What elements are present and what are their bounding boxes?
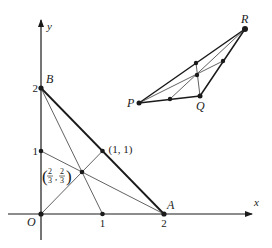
point-P <box>137 101 142 106</box>
triangle-PQR <box>139 29 245 103</box>
median-from-R <box>170 29 245 99</box>
x-tick-1: 1 <box>100 217 106 229</box>
point-R <box>242 26 248 32</box>
label-B: B <box>46 72 54 86</box>
frac2-num: 2 <box>60 167 64 176</box>
coordinate-triangle: O A B (1, 1) 1 2 1 2 ( 2 3 , 2 3 ) <box>27 72 175 229</box>
point-O <box>38 211 43 216</box>
midpoint-OA <box>100 212 105 217</box>
right-paren: ) <box>66 167 72 186</box>
label-P: P <box>126 96 135 110</box>
median-centroid-diagram: x y O A B (1, 1) 1 2 1 2 ( 2 3 , 2 <box>0 0 272 248</box>
centroid-PQR <box>195 73 199 77</box>
point-B <box>38 85 43 90</box>
y-tick-1: 1 <box>33 145 39 157</box>
median-from-Q <box>196 63 200 96</box>
centroid-point <box>80 170 85 175</box>
label-A: A <box>166 198 175 212</box>
frac1-den: 3 <box>48 176 52 185</box>
midpoint-OB <box>39 149 44 154</box>
centroid-label: ( 2 3 , 2 3 ) <box>42 167 72 186</box>
median-from-P <box>139 61 223 103</box>
point-Q <box>198 94 203 99</box>
point-A <box>161 211 166 216</box>
comma: , <box>55 172 57 182</box>
midpoint-AB <box>100 149 105 154</box>
axes: x y <box>8 20 259 240</box>
median-from-B <box>41 88 103 214</box>
label-Q: Q <box>196 99 205 113</box>
midpoint-PR <box>194 61 198 65</box>
label-R: R <box>240 12 249 26</box>
frac1-num: 2 <box>48 167 52 176</box>
frac2-den: 3 <box>60 176 64 185</box>
general-triangle: P Q R <box>126 12 249 113</box>
label-O: O <box>27 215 36 229</box>
midpoint-PQ <box>168 97 172 101</box>
y-tick-2: 2 <box>33 82 39 94</box>
midpoint-QR <box>221 59 225 63</box>
label-midpoint-1-1: (1, 1) <box>109 143 133 156</box>
x-tick-2: 2 <box>161 217 167 229</box>
x-axis-label: x <box>253 196 259 208</box>
y-axis-label: y <box>46 20 52 32</box>
